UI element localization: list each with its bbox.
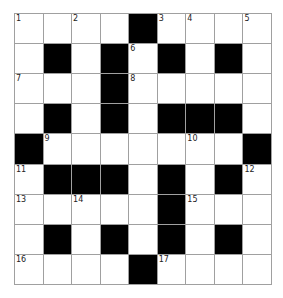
letter-cell[interactable]: 5 — [243, 14, 272, 44]
clue-number: 17 — [159, 255, 169, 264]
block-cell — [44, 104, 73, 134]
letter-cell[interactable]: 12 — [243, 165, 272, 195]
letter-cell[interactable]: 17 — [158, 255, 187, 285]
letter-cell[interactable] — [129, 225, 158, 255]
letter-cell[interactable]: 10 — [186, 134, 215, 164]
clue-number: 9 — [45, 134, 50, 143]
block-cell — [44, 44, 73, 74]
block-cell — [215, 165, 244, 195]
block-cell — [101, 104, 130, 134]
letter-cell[interactable] — [243, 255, 272, 285]
letter-cell[interactable] — [243, 44, 272, 74]
letter-cell[interactable] — [44, 255, 73, 285]
block-cell — [158, 225, 187, 255]
letter-cell[interactable] — [72, 74, 101, 104]
letter-cell[interactable]: 8 — [129, 74, 158, 104]
letter-cell[interactable]: 14 — [72, 195, 101, 225]
clue-number: 6 — [130, 44, 135, 53]
letter-cell[interactable] — [15, 104, 44, 134]
clue-number: 1 — [16, 14, 21, 23]
letter-cell[interactable]: 1 — [15, 14, 44, 44]
block-cell — [243, 134, 272, 164]
block-cell — [72, 165, 101, 195]
letter-cell[interactable] — [186, 225, 215, 255]
clue-number: 7 — [16, 74, 21, 83]
letter-cell[interactable] — [44, 195, 73, 225]
letter-cell[interactable] — [129, 165, 158, 195]
block-cell — [101, 44, 130, 74]
letter-cell[interactable] — [158, 134, 187, 164]
letter-cell[interactable] — [101, 14, 130, 44]
letter-cell[interactable]: 2 — [72, 14, 101, 44]
letter-cell[interactable] — [72, 255, 101, 285]
block-cell — [158, 165, 187, 195]
clue-number: 15 — [187, 195, 197, 204]
block-cell — [44, 165, 73, 195]
letter-cell[interactable]: 9 — [44, 134, 73, 164]
block-cell — [129, 14, 158, 44]
letter-cell[interactable] — [243, 225, 272, 255]
letter-cell[interactable] — [101, 255, 130, 285]
block-cell — [158, 44, 187, 74]
block-cell — [215, 44, 244, 74]
block-cell — [101, 74, 130, 104]
letter-cell[interactable]: 3 — [158, 14, 187, 44]
letter-cell[interactable] — [186, 255, 215, 285]
letter-cell[interactable]: 7 — [15, 74, 44, 104]
letter-cell[interactable] — [215, 134, 244, 164]
clue-number: 8 — [130, 74, 135, 83]
block-cell — [215, 225, 244, 255]
block-cell — [101, 165, 130, 195]
letter-cell[interactable] — [101, 195, 130, 225]
letter-cell[interactable] — [15, 225, 44, 255]
block-cell — [215, 104, 244, 134]
clue-number: 16 — [16, 255, 26, 264]
letter-cell[interactable] — [101, 134, 130, 164]
letter-cell[interactable] — [215, 195, 244, 225]
clue-number: 3 — [159, 14, 164, 23]
crossword-grid: 1234567891011121314151617 — [14, 13, 272, 285]
letter-cell[interactable] — [72, 134, 101, 164]
block-cell — [158, 195, 187, 225]
letter-cell[interactable]: 4 — [186, 14, 215, 44]
letter-cell[interactable]: 13 — [15, 195, 44, 225]
block-cell — [44, 225, 73, 255]
letter-cell[interactable] — [72, 44, 101, 74]
letter-cell[interactable] — [243, 74, 272, 104]
block-cell — [186, 104, 215, 134]
letter-cell[interactable] — [15, 44, 44, 74]
letter-cell[interactable] — [129, 104, 158, 134]
letter-cell[interactable]: 6 — [129, 44, 158, 74]
letter-cell[interactable] — [186, 44, 215, 74]
letter-cell[interactable] — [72, 104, 101, 134]
block-cell — [101, 225, 130, 255]
letter-cell[interactable] — [243, 104, 272, 134]
letter-cell[interactable] — [129, 134, 158, 164]
letter-cell[interactable]: 16 — [15, 255, 44, 285]
clue-number: 14 — [73, 195, 83, 204]
clue-number: 13 — [16, 195, 26, 204]
letter-cell[interactable] — [215, 255, 244, 285]
letter-cell[interactable] — [129, 195, 158, 225]
clue-number: 12 — [244, 165, 254, 174]
letter-cell[interactable] — [243, 195, 272, 225]
clue-number: 4 — [187, 14, 192, 23]
block-cell — [15, 134, 44, 164]
letter-cell[interactable]: 15 — [186, 195, 215, 225]
block-cell — [158, 104, 187, 134]
letter-cell[interactable] — [44, 14, 73, 44]
letter-cell[interactable]: 11 — [15, 165, 44, 195]
letter-cell[interactable] — [72, 225, 101, 255]
letter-cell[interactable] — [44, 74, 73, 104]
letter-cell[interactable] — [215, 14, 244, 44]
letter-cell[interactable] — [158, 74, 187, 104]
clue-number: 5 — [244, 14, 249, 23]
clue-number: 11 — [16, 165, 26, 174]
letter-cell[interactable] — [215, 74, 244, 104]
clue-number: 2 — [73, 14, 78, 23]
letter-cell[interactable] — [186, 165, 215, 195]
letter-cell[interactable] — [186, 74, 215, 104]
clue-number: 10 — [187, 134, 197, 143]
block-cell — [129, 255, 158, 285]
